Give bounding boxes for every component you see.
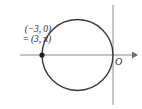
origin-label: O (115, 56, 122, 67)
x-axis-arrowhead (132, 52, 138, 59)
plotted-point-label-polar: = (3, π) (5, 35, 51, 45)
figure-canvas (0, 0, 142, 109)
polar-circle-figure: (−3, 0) = (3, π) O (0, 0, 142, 109)
plotted-point-marker (39, 52, 44, 57)
plotted-point-label: (−3, 0) = (3, π) (5, 25, 51, 45)
